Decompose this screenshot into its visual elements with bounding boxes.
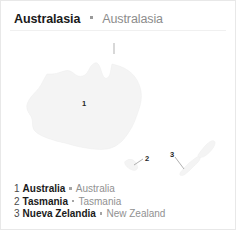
legend-number: 1	[14, 183, 20, 194]
map-container: 1 2 3	[1, 33, 235, 181]
new-zealand-north-island	[198, 141, 215, 158]
card-header: Australasia Australasia	[1, 1, 235, 30]
map-legend: 1AustraliaAustralia 2TasmaniaTasmania 3N…	[1, 183, 235, 221]
legend-name: Australia	[23, 183, 66, 194]
legend-alt-name: Tasmania	[78, 196, 121, 207]
map-label-1: 1	[82, 99, 86, 108]
legend-alt-name: Australia	[76, 183, 115, 194]
title-separator-bullet	[90, 16, 93, 19]
legend-number: 2	[14, 196, 20, 207]
legend-alt-name: New Zealand	[106, 208, 165, 219]
map-label-2: 2	[145, 154, 149, 163]
map-svg: 1 2 3	[1, 33, 235, 181]
legend-name: Tasmania	[23, 196, 68, 207]
legend-item-tasmania: 2TasmaniaTasmania	[14, 196, 235, 209]
legend-separator-bullet	[69, 187, 72, 190]
legend-item-new-zealand: 3Nueva ZelandiaNew Zealand	[14, 208, 235, 221]
page-subtitle: Australasia	[102, 12, 163, 26]
new-zealand-south-island	[180, 157, 200, 176]
legend-number: 3	[14, 208, 20, 219]
map-label-3: 3	[170, 150, 174, 159]
legend-separator-bullet	[72, 200, 75, 203]
page-title: Australasia	[14, 12, 80, 26]
legend-separator-bullet	[100, 212, 103, 215]
label-3-leader-line	[175, 157, 184, 169]
header-divider	[10, 30, 226, 31]
legend-item-australia: 1AustraliaAustralia	[14, 183, 235, 196]
tasmania-landmass	[125, 159, 138, 170]
australasia-map-card: Australasia Australasia 1 2 3 1Australia	[0, 0, 236, 230]
legend-name: Nueva Zelandia	[23, 208, 96, 219]
